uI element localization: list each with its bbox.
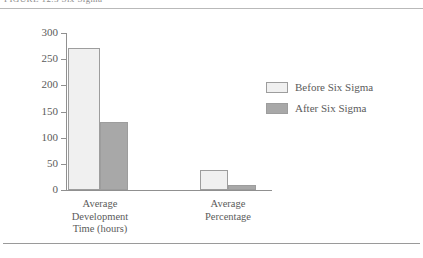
bottom-divider xyxy=(3,243,420,244)
y-axis-tick-label-text: 300 xyxy=(18,27,58,38)
bar-chart: 050100150200250300 AverageDevelopmentTim… xyxy=(0,0,423,258)
category-label: AveragePercentage xyxy=(173,198,283,223)
legend-item[interactable]: Before Six Sigma xyxy=(266,78,416,96)
bar-after xyxy=(100,122,128,190)
category-label-line: Average xyxy=(173,198,283,211)
category-label-line: Average xyxy=(45,198,155,211)
y-axis-tick xyxy=(61,33,66,34)
y-axis-tick-label-text: 0 xyxy=(18,184,58,195)
legend-item-label: After Six Sigma xyxy=(295,102,367,114)
y-axis-tick-label-text: 150 xyxy=(18,106,58,117)
y-axis-tick-label-text: 200 xyxy=(18,79,58,90)
y-axis-tick-label-text: 100 xyxy=(18,132,58,143)
legend-swatch-icon xyxy=(266,82,288,93)
chart-legend: Before Six SigmaAfter Six Sigma xyxy=(266,78,416,120)
y-axis-line xyxy=(66,33,67,191)
y-axis-tick-label-text: 50 xyxy=(18,158,58,169)
legend-item-label: Before Six Sigma xyxy=(295,81,373,93)
y-axis-tick xyxy=(61,138,66,139)
y-axis-tick xyxy=(61,164,66,165)
category-label: AverageDevelopmentTime (hours) xyxy=(45,198,155,236)
x-axis-line xyxy=(66,190,272,191)
category-label-line: Percentage xyxy=(173,211,283,224)
y-axis-tick-label-text: 250 xyxy=(18,53,58,64)
legend-item[interactable]: After Six Sigma xyxy=(266,99,416,117)
legend-swatch-icon xyxy=(266,103,288,114)
bar-before xyxy=(68,48,100,190)
y-axis-tick xyxy=(61,112,66,113)
category-label-line: Time (hours) xyxy=(45,223,155,236)
y-axis-tick xyxy=(61,190,66,191)
y-axis-tick xyxy=(61,59,66,60)
category-label-line: Development xyxy=(45,211,155,224)
bar-after xyxy=(228,185,256,190)
y-axis-tick xyxy=(61,85,66,86)
bar-before xyxy=(200,170,228,190)
